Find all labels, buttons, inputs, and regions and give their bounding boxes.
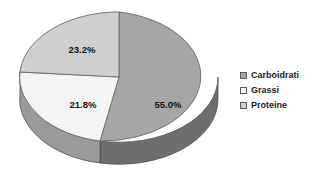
legend-item-carboidrati[interactable]: Carboidrati xyxy=(240,69,314,82)
pie-label-grassi: 21.8% xyxy=(70,99,97,110)
legend-item-grassi[interactable]: Grassi xyxy=(240,84,314,97)
pie-label-proteine: 23.2% xyxy=(69,44,96,55)
pie-top-face xyxy=(20,12,201,141)
pie-chart: 55.0% 21.8% 23.2% Carboidrati Grassi Pro… xyxy=(0,0,316,182)
legend-swatch-icon-carboidrati xyxy=(240,72,247,79)
legend-swatch-icon-grassi xyxy=(240,87,247,94)
chart-legend: Carboidrati Grassi Proteine xyxy=(240,69,314,114)
legend-label-proteine: Proteine xyxy=(251,100,287,111)
legend-swatch-icon-proteine xyxy=(240,102,247,109)
legend-item-proteine[interactable]: Proteine xyxy=(240,99,314,112)
pie-label-carboidrati: 55.0% xyxy=(155,99,182,110)
legend-label-carboidrati: Carboidrati xyxy=(251,70,299,81)
legend-label-grassi: Grassi xyxy=(251,85,279,96)
